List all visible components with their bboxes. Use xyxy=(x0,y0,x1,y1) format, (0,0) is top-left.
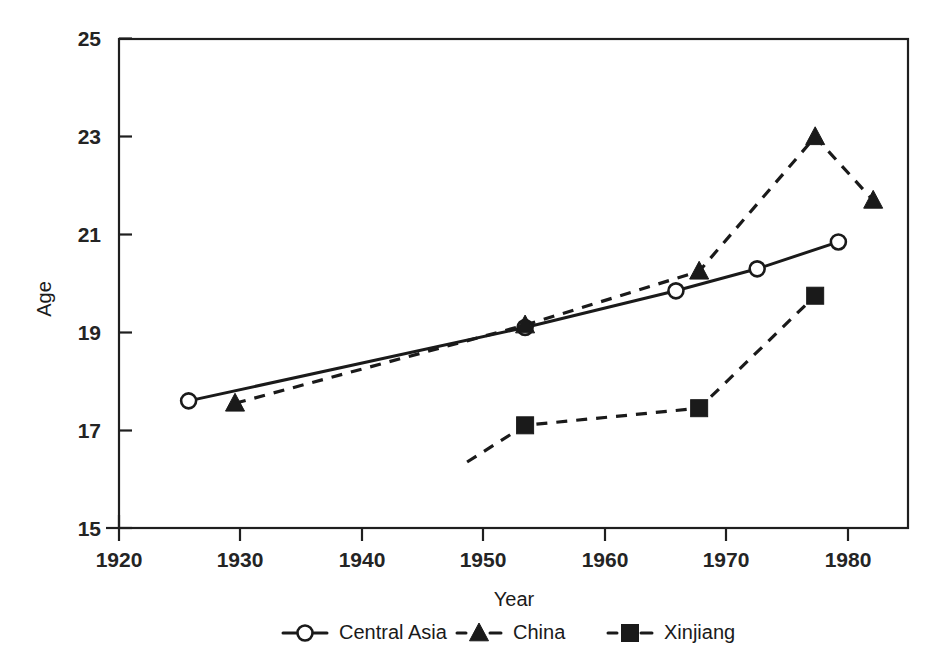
data-series-layer xyxy=(181,127,883,462)
legend-marker-sample xyxy=(622,625,639,642)
series-line xyxy=(235,137,873,404)
legend-label: Central Asia xyxy=(339,621,448,643)
legend-item-xinjiang[interactable]: Xinjiang xyxy=(608,621,735,643)
data-point-marker xyxy=(668,283,683,298)
y-axis-tick-labels: 25 23 21 19 17 15 xyxy=(78,27,102,540)
xtick-label-1970: 1970 xyxy=(703,548,750,571)
xtick-label-1980: 1980 xyxy=(825,548,872,571)
data-point-marker xyxy=(181,393,196,408)
series-line xyxy=(189,242,839,401)
legend-marker-sample xyxy=(298,626,313,641)
xtick-label-1960: 1960 xyxy=(582,548,629,571)
legend-item-central-asia[interactable]: Central Asia xyxy=(283,621,448,643)
ytick-label-23: 23 xyxy=(78,125,101,148)
line-chart-svg: 25 23 21 19 17 15 Age 1920 1930 1940 195… xyxy=(0,0,950,663)
legend-item-china[interactable]: China xyxy=(457,621,566,643)
y-axis-title: Age xyxy=(33,281,55,317)
x-axis-tick-labels: 1920 1930 1940 1950 1960 1970 1980 xyxy=(96,548,872,571)
ytick-label-19: 19 xyxy=(78,321,101,344)
series-line xyxy=(467,296,815,462)
xtick-label-1950: 1950 xyxy=(460,548,507,571)
data-point-marker xyxy=(750,261,765,276)
data-point-marker xyxy=(517,417,534,434)
data-point-marker xyxy=(807,287,824,304)
legend-label: Xinjiang xyxy=(664,621,735,643)
chart-legend: Central AsiaChinaXinjiang xyxy=(283,621,735,643)
series-china xyxy=(226,127,883,411)
data-point-marker xyxy=(831,234,846,249)
data-point-marker xyxy=(691,400,708,417)
plot-frame xyxy=(119,39,908,528)
x-axis-title: Year xyxy=(494,588,535,610)
series-xinjiang xyxy=(467,287,824,462)
chart-figure: 25 23 21 19 17 15 Age 1920 1930 1940 195… xyxy=(0,0,950,663)
ytick-label-15: 15 xyxy=(78,517,102,540)
data-point-marker xyxy=(864,190,883,208)
ytick-label-21: 21 xyxy=(78,223,102,246)
legend-label: China xyxy=(513,621,566,643)
data-point-marker xyxy=(806,127,825,145)
xtick-label-1930: 1930 xyxy=(217,548,264,571)
data-point-marker xyxy=(690,261,709,279)
legend-marker-sample xyxy=(470,623,489,641)
ytick-label-17: 17 xyxy=(78,419,101,442)
ytick-label-25: 25 xyxy=(78,27,102,50)
xtick-label-1940: 1940 xyxy=(339,548,386,571)
xtick-label-1920: 1920 xyxy=(96,548,143,571)
series-central-asia xyxy=(181,234,846,408)
